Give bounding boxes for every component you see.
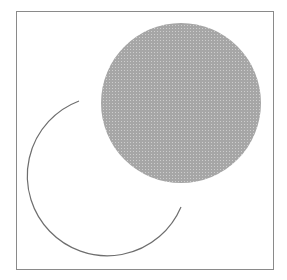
filled-circle: [101, 23, 261, 183]
diagram-canvas: [0, 0, 287, 280]
